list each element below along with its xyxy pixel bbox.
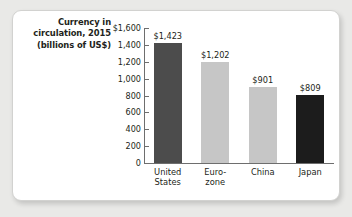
figure-card: Currency in circulation, 2015 (billions … [12,10,340,201]
y-axis-tick-label: 1,000 [97,75,141,83]
y-axis-tick-label: 1,400 [97,41,141,49]
y-axis-tick-labels: $1,6001,4001,2001,0008006004002000 [95,11,141,202]
y-axis-tick-label: 0 [97,159,141,167]
y-axis-tick-label: 600 [97,108,141,116]
y-axis-tick-label: $1,600 [97,24,141,32]
x-axis-category-labels: UnitedStatesEuro-zoneChinaJapan [144,167,334,197]
y-axis-tick-label: 1,200 [97,58,141,66]
category-label-line: zone [185,177,245,187]
bar [249,87,277,163]
category-label: Japan [280,167,340,177]
bar [296,95,324,163]
bar [154,43,182,163]
y-axis-tick-mark [145,163,149,164]
bar-value-label: $1,202 [185,51,245,60]
x-axis-line [144,163,334,164]
y-axis-tick-label: 400 [97,125,141,133]
bar-value-label: $1,423 [138,32,198,41]
y-axis-tick-label: 800 [97,92,141,100]
bar-value-label: $809 [280,84,340,93]
bar-chart: Currency in circulation, 2015 (billions … [13,11,341,202]
bars-layer: $1,423$1,202$901$809 [144,28,334,163]
bar [201,62,229,163]
y-axis-tick-label: 200 [97,142,141,150]
category-label-line: Japan [280,167,340,177]
